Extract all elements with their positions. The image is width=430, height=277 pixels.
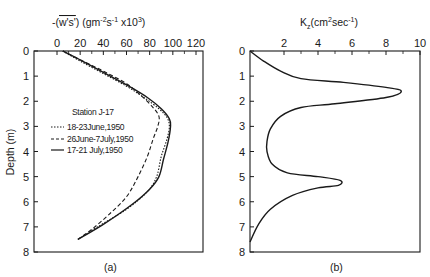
panel-a-label: (a) (104, 261, 117, 273)
x-tick-label: 80 (144, 37, 156, 49)
y-tick-label: 4 (23, 146, 29, 158)
legend-title: Station J-17 (72, 107, 114, 117)
series-line-solid (250, 51, 401, 242)
y-tick-label: 2 (239, 95, 245, 107)
panel-a-x-axis-title: -(w's') (gm-2s-1 x103) (52, 16, 145, 28)
y-tick-label: 7 (23, 221, 29, 233)
y-tick-label: 0 (239, 45, 245, 57)
x-tick-label: 60 (120, 37, 132, 49)
legend-item-1: 18-23June,1950 (67, 122, 125, 132)
panel-a: -(w's') (gm-2s-1 x103) 020406080100120 0… (4, 16, 205, 273)
x-tick-label: 8 (383, 37, 389, 49)
panel-b: Kz(cm2sec-1) 246810 012345678 (b) (239, 16, 426, 273)
figure: -(w's') (gm-2s-1 x103) 020406080100120 0… (0, 0, 430, 277)
y-tick-label: 5 (23, 171, 29, 183)
y-tick-label: 3 (23, 120, 29, 132)
y-tick-label: 1 (239, 70, 245, 82)
panel-b-label: (b) (330, 261, 343, 273)
x-tick-label: 4 (315, 37, 321, 49)
y-tick-label: 4 (239, 146, 245, 158)
panel-b-series (250, 51, 401, 242)
x-tick-label: 10 (414, 37, 426, 49)
x-tick-label: 2 (281, 37, 287, 49)
y-tick-label: 3 (239, 120, 245, 132)
y-tick-label: 8 (23, 246, 29, 258)
x-tick-label: 40 (97, 37, 109, 49)
x-tick-label: 100 (164, 37, 182, 49)
y-tick-label: 6 (23, 196, 29, 208)
legend-item-3: 17-21 July,1950 (67, 145, 123, 155)
panel-b-x-ticks: 246810 (281, 37, 426, 55)
y-tick-label: 0 (23, 45, 29, 57)
y-tick-label: 7 (239, 221, 245, 233)
y-tick-label: 2 (23, 95, 29, 107)
y-tick-label: 6 (239, 196, 245, 208)
panel-a-y-ticks: 012345678 (23, 45, 38, 258)
y-tick-label: 8 (239, 246, 245, 258)
panel-a-y-axis-title: Depth (m) (4, 129, 16, 176)
legend-item-2: 26June-7July,1950 (67, 134, 134, 144)
x-tick-label: 6 (349, 37, 355, 49)
y-tick-label: 5 (239, 171, 245, 183)
x-tick-label: 120 (187, 37, 205, 49)
y-tick-label: 1 (23, 70, 29, 82)
x-tick-label: 0 (54, 37, 60, 49)
panel-a-legend: Station J-17 18-23June,1950 26June-7July… (51, 107, 134, 155)
x-tick-label: 20 (74, 37, 86, 49)
panel-a-x-ticks: 020406080100120 (54, 37, 205, 55)
panel-b-x-axis-title: Kz(cm2sec-1) (300, 16, 358, 30)
panel-b-y-ticks: 012345678 (239, 45, 254, 258)
